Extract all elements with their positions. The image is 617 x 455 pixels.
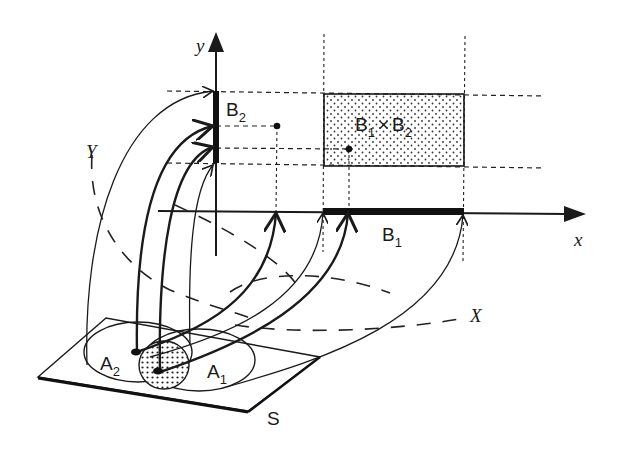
y-axis-arrowhead-icon — [208, 32, 224, 52]
B2-segment — [213, 91, 219, 163]
S-label: S — [267, 408, 280, 429]
point-in-intersection — [153, 367, 163, 374]
product-set-rectangle: B1×B2 — [324, 94, 464, 166]
x-axis-label: x — [573, 229, 583, 250]
Y-inner-curve — [175, 205, 300, 290]
x-axis-arrowhead-icon — [564, 206, 586, 222]
y-axis-label: y — [194, 35, 205, 56]
curve-to-B2-bottom — [190, 165, 213, 345]
B1-label: B1 — [382, 224, 402, 250]
product-mapping-diagram: B1×B2 y x B2 B1 Y X S A2 A1 — [0, 0, 617, 455]
curve-A2-to-B2 — [137, 126, 213, 352]
B2-label: B2 — [226, 99, 246, 125]
B1-segment — [323, 208, 464, 215]
curve-to-B1-right — [230, 215, 463, 386]
Y-label: Y — [86, 141, 99, 162]
curve-to-B1-left — [150, 213, 323, 357]
point-inside-product — [346, 146, 353, 153]
point-in-A2 — [131, 348, 141, 355]
A1-label: A1 — [207, 361, 227, 387]
guide-point-x — [276, 126, 277, 212]
Y-curve — [92, 155, 250, 318]
point-outside-product — [274, 123, 281, 130]
x-axis — [158, 206, 586, 222]
X-label: X — [469, 305, 483, 326]
curve-to-B2-top — [87, 91, 213, 365]
